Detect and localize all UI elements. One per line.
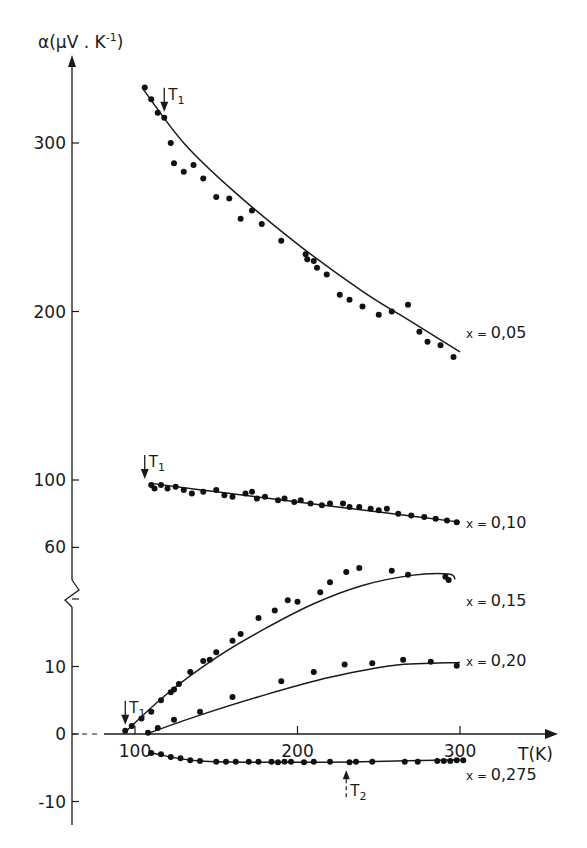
x-axis: 100200300 T(K) — [72, 726, 558, 764]
arrow-up-icon — [343, 770, 350, 779]
series-label: x = 0,05 — [466, 323, 526, 342]
annotation-layer: T1T1T1T2 — [121, 86, 366, 804]
data-point — [148, 96, 154, 102]
data-point — [176, 681, 182, 687]
data-point — [272, 607, 278, 613]
y-tick-label: 0 — [55, 724, 66, 744]
data-point — [129, 723, 135, 729]
data-point — [171, 160, 177, 166]
data-point — [171, 686, 177, 692]
data-point — [189, 490, 195, 496]
data-point — [207, 657, 213, 663]
data-point — [249, 207, 255, 213]
data-point — [158, 482, 164, 488]
data-point — [213, 194, 219, 200]
data-point — [311, 258, 317, 264]
data-point — [288, 759, 294, 765]
data-point — [444, 517, 450, 523]
data-point — [155, 725, 161, 731]
data-point — [262, 494, 268, 500]
data-point — [152, 485, 158, 491]
data-point — [434, 758, 440, 764]
data-point — [275, 759, 281, 765]
data-point — [416, 329, 422, 335]
data-point — [337, 292, 343, 298]
data-point — [384, 506, 390, 512]
data-point — [441, 758, 447, 764]
data-point — [405, 302, 411, 308]
data-point — [454, 663, 460, 669]
y-axis: 30020010060100-10 — [34, 55, 79, 825]
data-point — [155, 110, 161, 116]
data-point — [243, 490, 249, 496]
data-point — [327, 759, 333, 765]
data-point — [402, 759, 408, 765]
data-point — [254, 496, 260, 502]
data-point — [451, 354, 457, 360]
data-point — [145, 730, 151, 736]
y-tick-label: 200 — [34, 302, 66, 322]
svg-text:T1: T1 — [128, 699, 145, 720]
data-point — [319, 502, 325, 508]
data-point — [223, 759, 229, 765]
data-point — [230, 638, 236, 644]
data-point — [340, 501, 346, 507]
data-point — [187, 757, 193, 763]
data-point — [347, 504, 353, 510]
data-point — [158, 751, 164, 757]
y-axis-arrow-icon — [68, 55, 76, 67]
data-point — [295, 599, 301, 605]
data-point — [368, 506, 374, 512]
data-point — [256, 615, 262, 621]
data-point — [187, 669, 193, 675]
data-point — [301, 759, 307, 765]
data-point — [278, 678, 284, 684]
y-tick-label: 100 — [34, 470, 66, 490]
data-point — [122, 728, 128, 734]
data-point — [213, 649, 219, 655]
y-axis-label: α(μV . K-1) — [38, 31, 123, 52]
data-point — [230, 694, 236, 700]
data-point — [238, 216, 244, 222]
data-point — [369, 660, 375, 666]
annotation-T2: T2 — [343, 770, 367, 803]
data-point — [278, 238, 284, 244]
series-label: x = 0,15 — [466, 591, 526, 610]
svg-text:T1: T1 — [148, 453, 165, 474]
data-point — [291, 499, 297, 505]
data-point — [285, 597, 291, 603]
data-point — [446, 577, 452, 583]
data-point — [353, 759, 359, 765]
data-point — [298, 497, 304, 503]
data-point — [433, 516, 439, 522]
data-point — [395, 511, 401, 517]
data-point — [454, 757, 460, 763]
data-point — [343, 569, 349, 575]
data-point — [324, 271, 330, 277]
y-tick-label: 60 — [44, 537, 66, 557]
data-point — [226, 196, 232, 202]
data-point — [148, 750, 154, 756]
svg-text:T2: T2 — [349, 782, 366, 803]
data-point — [421, 514, 427, 520]
data-point — [200, 175, 206, 181]
data-point — [181, 487, 187, 493]
data-point — [311, 669, 317, 675]
data-point — [415, 759, 421, 765]
data-point — [347, 297, 353, 303]
data-point — [178, 755, 184, 761]
data-point — [314, 265, 320, 271]
series-005: x = 0,05 — [142, 84, 527, 360]
y-tick-label: -10 — [38, 792, 66, 812]
arrow-down-icon — [160, 102, 168, 112]
data-point — [327, 501, 333, 507]
annotation-T1: T1 — [160, 86, 184, 112]
data-point — [165, 485, 171, 491]
data-point — [460, 757, 466, 763]
data-point — [400, 657, 406, 663]
fit-curve — [143, 89, 460, 352]
data-point — [200, 658, 206, 664]
data-point — [200, 489, 206, 495]
x-tick-label: 100 — [119, 741, 151, 761]
series-label: x = 0,275 — [466, 765, 537, 784]
